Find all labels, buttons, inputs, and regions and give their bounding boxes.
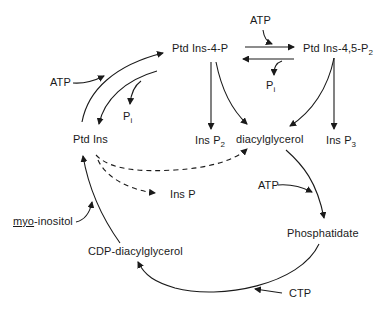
cofactor-pi-left: Pi: [123, 111, 132, 122]
arrow-pip2-to-dag: [290, 58, 334, 126]
node-insp2: Ins P2: [195, 135, 225, 146]
node-ptdins: Ptd Ins: [73, 134, 108, 145]
arrow-ptdins4p-to-dag: [216, 62, 247, 124]
arrow-pi-left: [130, 81, 141, 104]
cofactor-atp-left: ATP: [50, 77, 71, 88]
dashed-arrow-ptdins-to-dag: [96, 149, 247, 171]
arrow-cdpdag-to-ptdins: [83, 156, 120, 243]
arrow-ctp: [255, 289, 282, 293]
node-ptdins4p: Ptd Ins-4-P: [172, 43, 228, 54]
cofactor-pi-top: Pi: [266, 80, 275, 91]
cofactor-atp-top: ATP: [250, 15, 271, 26]
dashed-arrow-ptdins-to-insp: [98, 160, 155, 193]
node-phosphatidate: Phosphatidate: [287, 228, 359, 239]
arrow-atp-right: [278, 185, 312, 192]
cofactor-ctp: CTP: [289, 288, 311, 299]
arrow-atp-top: [263, 30, 272, 44]
arrow-atp-left: [73, 76, 104, 83]
node-insp3: Ins P3: [326, 135, 356, 146]
node-cdp-diacylglycerol: CDP-diacylglycerol: [88, 246, 183, 257]
arrow-dag-to-phosphatidate: [286, 150, 324, 218]
arrow-pi-top: [274, 61, 282, 75]
node-myo-inositol: myo-inositol: [13, 216, 73, 227]
arrow-myo-inositol: [76, 202, 92, 222]
node-insp: Ins P: [170, 189, 196, 200]
node-diacylglycerol: diacylglycerol: [236, 134, 303, 145]
cofactor-atp-right: ATP: [258, 180, 279, 191]
node-ptdins45p2: Ptd Ins-4,5-P2: [303, 43, 373, 54]
